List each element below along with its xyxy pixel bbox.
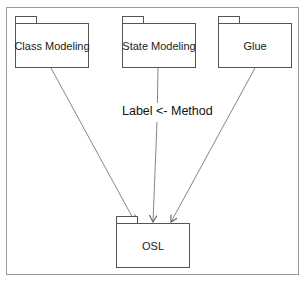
package-body: OSL — [116, 223, 190, 268]
package-name: Class Modeling — [14, 40, 89, 52]
package-body: Class Modeling — [15, 23, 89, 68]
package-name: State Modeling — [122, 40, 195, 52]
package-name: OSL — [142, 240, 164, 252]
edge-state-to-osl — [153, 122, 157, 222]
edge-label: Label <- Method — [122, 104, 213, 118]
edge-state-to-osl-upper — [157, 68, 158, 103]
package-body: Glue — [218, 23, 292, 68]
package-body: State Modeling — [122, 23, 196, 68]
edge-class-to-osl — [51, 68, 135, 222]
edge-glue-to-osl — [171, 68, 255, 222]
package-name: Glue — [243, 40, 266, 52]
